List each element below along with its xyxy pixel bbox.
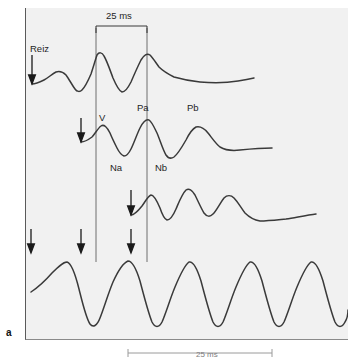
peak-label-pa: Pa bbox=[137, 103, 149, 113]
peak-label-nb: Nb bbox=[155, 163, 167, 173]
panel-letter: a bbox=[6, 327, 12, 338]
peak-label-na: Na bbox=[110, 163, 122, 173]
figure-root: Reiz 25 ms V Pa Pb Na Nb a 25 ms bbox=[0, 0, 348, 361]
scale-bar-label: 25 ms bbox=[196, 350, 218, 359]
peak-label-pb: Pb bbox=[187, 103, 199, 113]
stimulus-label: Reiz bbox=[30, 44, 49, 54]
plot-panel bbox=[25, 8, 348, 340]
interval-label: 25 ms bbox=[106, 11, 132, 21]
peak-label-v: V bbox=[99, 113, 105, 123]
